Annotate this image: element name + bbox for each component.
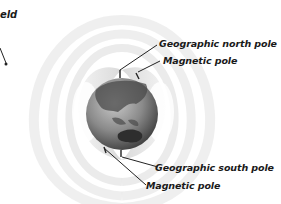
label-magnetic-south-pole: Magnetic pole xyxy=(146,180,220,191)
title-fragment: eld xyxy=(0,9,17,20)
label-geographic-north-pole: Geographic north pole xyxy=(159,38,277,49)
field-illustration xyxy=(0,0,281,204)
label-geographic-south-pole: Geographic south pole xyxy=(155,162,274,173)
label-magnetic-north-pole: Magnetic pole xyxy=(163,55,237,66)
earth-globe xyxy=(86,78,158,150)
magnetic-field-diagram: eld Geographic north pole Magnetic pole … xyxy=(0,0,281,204)
